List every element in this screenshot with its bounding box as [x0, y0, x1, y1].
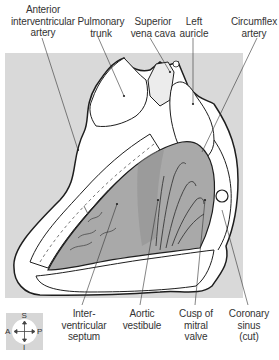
label-superior-vena-cava: Superior vena cava — [126, 16, 180, 39]
heart-illustration — [0, 0, 279, 360]
label-anterior-interventricular-artery: Anterior interventricular artery — [8, 4, 78, 39]
orientation-compass: S I A P — [6, 313, 43, 350]
compass-label-anterior: A — [5, 328, 10, 336]
label-coronary-sinus: Coronary sinus (cut) — [224, 308, 274, 343]
label-interventricular-septum: Inter- ventricular septum — [58, 308, 110, 343]
label-left-auricle: Left auricle — [176, 16, 212, 39]
label-circumflex-artery: Circumflex artery — [226, 16, 279, 39]
label-aortic-vestibule: Aortic vestibule — [118, 308, 166, 331]
compass-label-superior: S — [22, 312, 27, 320]
label-cusp-of-mitral-valve: Cusp of mitral valve — [174, 308, 218, 343]
coronary-sinus-shape — [216, 190, 228, 202]
compass-label-inferior: I — [23, 344, 25, 352]
label-pulmonary-trunk: Pulmonary trunk — [74, 16, 128, 39]
compass-label-posterior: P — [37, 328, 42, 336]
